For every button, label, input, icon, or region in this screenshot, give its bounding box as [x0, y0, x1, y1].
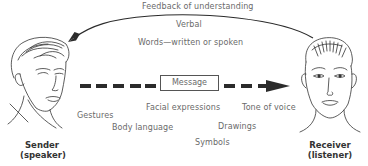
- gestures-label: Gestures: [77, 111, 114, 120]
- feedback-label: Feedback of understanding: [142, 2, 254, 11]
- sender-subtitle: (speaker): [20, 150, 64, 160]
- receiver-title: Receiver: [301, 140, 359, 150]
- receiver-illustration: [300, 38, 360, 132]
- tone-of-voice-label: Tone of voice: [242, 103, 296, 112]
- body-language-label: Body language: [112, 123, 173, 132]
- drawings-label: Drawings: [218, 122, 256, 131]
- symbols-label: Symbols: [195, 138, 230, 147]
- facial-expressions-label: Facial expressions: [146, 103, 220, 112]
- message-box: Message: [160, 75, 219, 91]
- verbal-label: Verbal: [176, 20, 202, 29]
- words-label: Words—written or spoken: [138, 38, 243, 47]
- sender-label: Sender (speaker): [20, 140, 64, 160]
- receiver-label: Receiver (listener): [301, 140, 359, 160]
- sender-illustration: [8, 37, 69, 128]
- sender-title: Sender: [20, 140, 64, 150]
- receiver-subtitle: (listener): [301, 150, 359, 160]
